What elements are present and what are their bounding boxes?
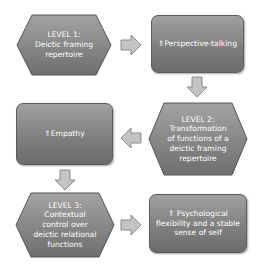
level2-line5: repertoire [179,154,217,163]
empathy-box: ⇑Empathy [16,103,113,165]
level2-line2: Transformation [170,124,227,133]
flexibility-line3: sense of self [174,228,222,237]
perspective-taking-label: ⇑Perspective-talking [152,39,243,49]
arrow-right-icon [120,214,142,236]
level3-hexagon: LEVEL 3:Contextualcontrol overdeictic re… [15,192,115,258]
level3-line5: functions [48,240,83,249]
level2-line4: deictic framing [169,144,226,153]
level1-hexagon: LEVEL 1:Deictic framingrepertoire [16,14,112,76]
arrow-down-icon [186,76,208,98]
level3-line3: control over [42,220,88,229]
level1-line3: repertoire [45,50,83,59]
level3-line2: Contextual [44,210,85,219]
level3-line4: deictic relational [33,230,96,239]
perspective-taking-box: ⇑Perspective-talking [151,15,244,73]
level3-title: LEVEL 3: [48,201,81,210]
level2-hexagon: LEVEL 2:Transformationof functions of ad… [148,102,248,176]
arrow-left-icon [120,127,142,149]
flexibility-line2: flexibility and a stable [156,219,240,228]
psychological-flexibility-box: ⇑ Psychologicalflexibility and a stables… [149,194,247,253]
flexibility-line1: ⇑ Psychological [168,209,228,218]
arrow-right-icon [120,34,142,56]
arrow-down-icon [54,169,76,191]
level2-line3: of functions of a [167,134,229,143]
level2-title: LEVEL 2: [181,115,214,124]
empathy-label: ⇑Empathy [38,129,90,139]
level1-title: LEVEL 1: [47,30,80,39]
level1-line2: Deictic framing [35,40,93,49]
